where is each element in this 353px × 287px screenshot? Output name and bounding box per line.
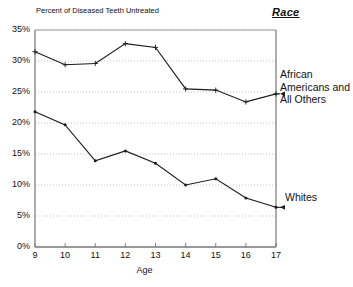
y-tick-label: 15% (2, 148, 30, 158)
y-tick-label: 30% (2, 55, 30, 65)
x-tick-label: 15 (206, 250, 226, 260)
data-point-marker (124, 149, 127, 152)
series-label-whites: Whites (285, 191, 317, 204)
y-tick-label: 25% (2, 86, 30, 96)
series-line (35, 44, 276, 102)
series-label-line-1: Whites (285, 191, 317, 204)
y-tick-label: 5% (2, 210, 30, 220)
y-tick-label: 20% (2, 117, 30, 127)
data-point-marker (244, 197, 247, 200)
data-point-marker (94, 159, 97, 162)
x-tick-label: 11 (85, 250, 105, 260)
series-pointer-arrows (276, 91, 285, 209)
series-callout-arrow (276, 205, 285, 210)
data-series-layer (32, 41, 278, 209)
x-tick-label: 12 (115, 250, 135, 260)
x-tick-label: 16 (236, 250, 256, 260)
series-label-line-1: African (280, 68, 350, 81)
x-tick-label: 9 (25, 250, 45, 260)
data-point-marker (154, 162, 157, 165)
x-tick-label: 17 (266, 250, 286, 260)
data-point-marker (63, 62, 68, 67)
data-point-marker (34, 110, 37, 113)
chart-figure: Percent of Diseased Teeth Untreated Race… (0, 0, 353, 287)
data-point-marker (64, 123, 67, 126)
data-point-marker (213, 88, 218, 93)
series-label-line-2: Americans and (280, 81, 350, 94)
data-point-marker (32, 49, 37, 54)
series-label-african-americans: African Americans and All Others (280, 68, 350, 106)
axes (35, 30, 276, 247)
y-tick-label: 35% (2, 24, 30, 34)
y-tick-label: 10% (2, 179, 30, 189)
gridlines (35, 30, 276, 216)
data-point-marker (184, 184, 187, 187)
data-point-marker (93, 61, 98, 66)
data-point-marker (214, 177, 217, 180)
x-axis-title: Age (0, 265, 289, 275)
series-label-line-3: All Others (280, 93, 350, 106)
x-tick-label: 14 (176, 250, 196, 260)
data-point-marker (243, 99, 248, 104)
plot-area (0, 0, 353, 287)
series-line (35, 112, 276, 208)
x-tick-label: 13 (146, 250, 166, 260)
x-tick-label: 10 (55, 250, 75, 260)
